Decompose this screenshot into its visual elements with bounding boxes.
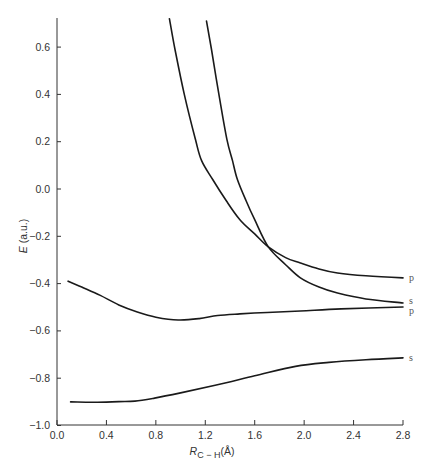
x-tick-label: 1.2 xyxy=(198,429,213,441)
y-tick-label: −0.8 xyxy=(29,372,50,384)
x-tick-label: 2.4 xyxy=(346,429,361,441)
curve-s-3 xyxy=(71,358,403,402)
y-tick-label: 0.6 xyxy=(35,41,50,53)
y-tick-label: 0.4 xyxy=(35,88,50,100)
x-ticks: 0.00.40.81.21.62.02.42.8 xyxy=(50,420,411,441)
x-tick-label: 0.4 xyxy=(99,429,114,441)
x-tick-label: 0.0 xyxy=(50,429,65,441)
y-axis-title: E(a.u.) xyxy=(17,219,29,254)
curve-end-label-p: p xyxy=(409,305,414,316)
y-tick-label: 0.0 xyxy=(35,183,50,195)
x-tick-label: 2.0 xyxy=(297,429,312,441)
x-tick-label: 2.8 xyxy=(396,429,411,441)
curve-s-1 xyxy=(207,21,404,303)
y-tick-label: −0.2 xyxy=(29,230,50,242)
curve-p-0 xyxy=(169,19,403,278)
curves xyxy=(68,19,403,403)
curve-p-2 xyxy=(68,281,403,320)
curve-end-label-s: s xyxy=(409,352,413,363)
curve-end-label-p: p xyxy=(409,272,414,283)
curve-end-labels: psps xyxy=(409,272,414,363)
y-ticks: 0.60.40.20.0−0.2−0.4−0.6−0.8−1.0 xyxy=(29,41,61,431)
x-tick-label: 0.8 xyxy=(149,429,164,441)
y-tick-label: 0.2 xyxy=(35,135,50,147)
x-axis-title: RC − H(Å) xyxy=(190,445,235,460)
y-tick-label: −0.4 xyxy=(29,277,50,289)
x-tick-label: 1.6 xyxy=(247,429,262,441)
y-tick-label: −1.0 xyxy=(29,419,50,431)
energy-curve-chart: 0.60.40.20.0−0.2−0.4−0.6−0.8−1.0 0.00.40… xyxy=(0,0,429,472)
axes xyxy=(57,18,403,425)
y-tick-label: −0.6 xyxy=(29,324,50,336)
